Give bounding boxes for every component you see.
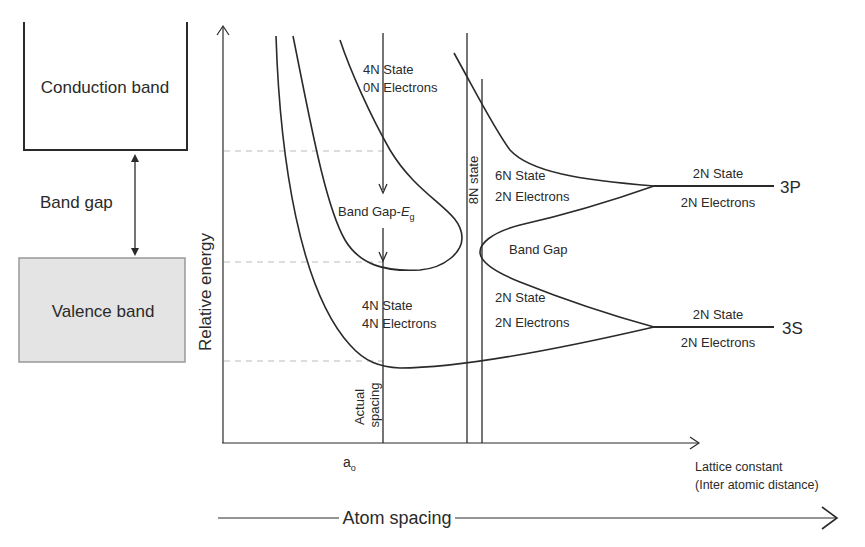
y-axis-label: Relative energy <box>196 232 215 351</box>
upper-band-state: 4N State <box>363 62 414 77</box>
middle-band-gap-label: Band Gap <box>509 242 568 257</box>
conduction-band-box: Conduction band <box>24 22 187 150</box>
svg-text:6N State: 6N State <box>495 168 546 183</box>
upper-band-annotation: 4N State 0N Electrons <box>363 62 438 95</box>
band-gap-label: Band gap <box>40 193 113 212</box>
svg-text:2N State: 2N State <box>495 290 546 305</box>
x-axis <box>222 437 699 449</box>
svg-text:spacing: spacing <box>367 383 382 428</box>
atom-spacing-arrow: Atom spacing <box>218 507 837 529</box>
svg-text:(Inter atomic distance): (Inter atomic distance) <box>695 478 819 492</box>
level-3s-annotation: 2N State 2N Electrons 3S <box>681 307 803 350</box>
conduction-band-label: Conduction band <box>41 78 170 97</box>
lower-band-annotation: 4N State 4N Electrons <box>362 298 437 331</box>
valence-band-label: Valence band <box>52 302 155 321</box>
svg-text:2N State: 2N State <box>693 307 744 322</box>
lower-band-electrons: 4N Electrons <box>362 316 437 331</box>
svg-text:2N Electrons: 2N Electrons <box>681 335 756 350</box>
band-gap-arrow: Band gap <box>40 154 139 256</box>
svg-text:2N State: 2N State <box>693 166 744 181</box>
level-3s-label: 3S <box>782 319 803 338</box>
level-3p-label: 3P <box>780 178 801 197</box>
band-gap-eg-label: Band Gap-Eg <box>338 204 415 222</box>
lower-band-state: 4N State <box>362 298 413 313</box>
svg-text:2N Electrons: 2N Electrons <box>495 189 570 204</box>
svg-text:Actual: Actual <box>352 389 367 425</box>
y-axis <box>217 26 229 443</box>
actual-spacing-label: Actual spacing <box>352 383 382 428</box>
svg-text:Lattice constant: Lattice constant <box>695 460 783 474</box>
atom-spacing-label: Atom spacing <box>342 508 451 528</box>
upper-band-electrons: 0N Electrons <box>363 80 438 95</box>
x-axis-label: Lattice constant (Inter atomic distance) <box>695 460 819 492</box>
valence-band-box: Valence band <box>19 258 185 362</box>
eight-n-state-label: 8N state <box>466 156 481 204</box>
band-diagram: Conduction band Band gap Valence band Re… <box>0 0 865 547</box>
x-tick-a0: ao <box>343 454 356 473</box>
level-3p-annotation: 2N State 2N Electrons 3P <box>681 166 801 210</box>
svg-text:2N Electrons: 2N Electrons <box>681 195 756 210</box>
svg-text:2N Electrons: 2N Electrons <box>495 315 570 330</box>
